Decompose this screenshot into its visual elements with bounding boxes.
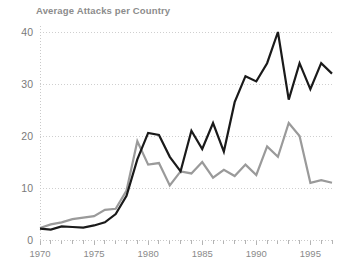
x-axis-tick-labels: 197019751980198519901995 — [29, 248, 321, 259]
x-tick-label-1970: 1970 — [29, 248, 50, 259]
x-tick-label-1990: 1990 — [246, 248, 267, 259]
series-line-gray-series — [40, 123, 332, 228]
y-tick-label-20: 20 — [21, 130, 33, 142]
x-axis-ticks — [40, 240, 332, 245]
x-tick-label-1975: 1975 — [84, 248, 105, 259]
y-tick-label-10: 10 — [21, 182, 33, 194]
data-series-group — [40, 32, 332, 230]
x-tick-label-1995: 1995 — [300, 248, 321, 259]
chart-container: Average Attacks per Country 010203040 19… — [0, 0, 339, 273]
y-axis-tick-labels: 010203040 — [21, 26, 33, 246]
x-tick-label-1985: 1985 — [192, 248, 213, 259]
chart-plot-area: 010203040 197019751980198519901995 — [0, 0, 339, 273]
y-tick-label-40: 40 — [21, 26, 33, 38]
y-tick-label-30: 30 — [21, 78, 33, 90]
x-tick-label-1980: 1980 — [138, 248, 159, 259]
gridlines — [40, 26, 332, 240]
y-tick-label-0: 0 — [27, 234, 33, 246]
series-line-dark-series — [40, 32, 332, 230]
